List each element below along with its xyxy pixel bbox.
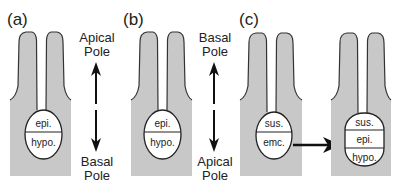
cell-label-hypo: hypo. (352, 152, 376, 163)
axis-bottom-label-line2: Pole (84, 168, 110, 183)
axis-top-label-line1: Apical (79, 30, 115, 45)
panel-c: (c) sus. emc. sus. e (239, 10, 391, 176)
axis-bottom-label-line2: Pole (202, 168, 228, 183)
panel-b-label: (b) (123, 10, 144, 29)
cell-label-emc: emc. (263, 137, 285, 148)
axis-bottom-label-line1: Basal (81, 154, 114, 169)
panel-a-label: (a) (7, 10, 28, 29)
cell-label-epi: epi. (154, 118, 170, 129)
cell-label-hypo: hypo. (31, 137, 55, 148)
cell-label-hypo: hypo. (150, 137, 174, 148)
cell-label-epi: epi. (356, 134, 372, 145)
embryo-c-after: sus. epi. hypo. (345, 113, 384, 166)
cell-label-sus: sus. (355, 117, 373, 128)
polarity-axis-b: Basal Pole Apical Pole (197, 30, 233, 183)
axis-top-label-line2: Pole (202, 44, 228, 59)
embryo-polarity-diagram: (a) epi. hypo. Apical Pole Basal Pole (b (0, 0, 402, 191)
embryo-b: epi. hypo. (144, 110, 181, 159)
panel-b: (b) epi. hypo. Basal Pole Apical Pole (123, 10, 233, 183)
polarity-axis-a: Apical Pole Basal Pole (79, 30, 115, 183)
panel-a: (a) epi. hypo. Apical Pole Basal Pole (7, 10, 115, 183)
embryo-c-before: sus. emc. (256, 112, 292, 159)
embryo-a: epi. hypo. (25, 110, 62, 159)
axis-bottom-label-line1: Apical (197, 154, 233, 169)
axis-top-label-line1: Basal (199, 30, 232, 45)
cell-label-epi: epi. (35, 118, 51, 129)
axis-top-label-line2: Pole (84, 44, 110, 59)
cell-label-sus: sus. (265, 118, 283, 129)
panel-c-label: (c) (239, 10, 259, 29)
